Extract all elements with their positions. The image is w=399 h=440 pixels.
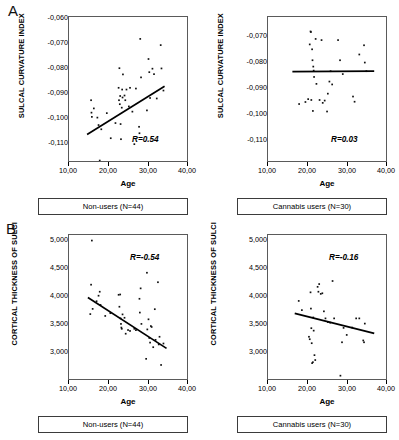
data-point [343,327,345,329]
data-point [118,87,120,89]
data-point [152,346,154,348]
y-tick-label: -0,080 [227,58,267,65]
x-tick-label: 10,00 [59,385,77,392]
data-point [160,44,162,46]
x-axis: 10,00 20,00 30,00 40,00 [68,380,188,385]
regression-line [87,86,164,134]
data-point [342,73,344,75]
data-point [120,138,122,140]
data-point [157,281,159,283]
data-point [163,90,165,92]
data-point [341,341,343,343]
data-point [358,54,360,56]
y-tick-label: 3,000 [227,348,267,355]
x-tick-label: 20,00 [298,385,316,392]
data-point [125,333,127,335]
data-point [121,89,123,91]
y-axis-ticks: 5,000 4,500 4,000 3,500 3,000 [223,232,267,382]
data-point [310,31,312,33]
data-point [148,58,150,60]
group-caption-text: Cannabis users (N=30) [273,203,351,211]
data-point [313,76,315,78]
data-point [337,39,339,41]
data-point [346,334,348,336]
correlation-label: R=0.54 [132,136,159,144]
data-point [90,284,92,286]
data-point [139,132,141,134]
y-tick-label: 4,500 [28,264,68,271]
data-point [154,308,156,310]
data-point [126,89,128,91]
data-point [309,44,311,46]
y-tick-label: -0,070 [227,32,267,39]
data-point [305,101,307,103]
y-axis-ticks: 5,000 4,500 4,000 3,500 3,000 [24,232,68,382]
group-caption-box: Cannabis users (N=30) [237,416,387,433]
panel-a: A SULCAL CURVATURE INDEX -0,060 -0,070 -… [0,0,399,220]
y-axis-ticks: -0,060 -0,070 -0,080 -0,090 -0,100 -0,11… [24,14,68,164]
regression-line [292,71,374,72]
data-point [122,97,124,99]
data-point [146,110,148,112]
correlation-label: R=0.03 [331,136,358,144]
y-tick-label: -0,080 [28,64,68,71]
x-axis-title: Age [68,180,188,188]
scatter-canvas [69,17,187,161]
data-point [332,280,334,282]
plot-sulcal-curvature-nonusers: SULCAL CURVATURE INDEX -0,060 -0,070 -0,… [2,14,198,216]
data-point [106,112,108,114]
scatter-canvas [268,235,386,379]
data-point [139,38,141,40]
data-point [310,291,312,293]
data-point [124,317,126,319]
y-tick-label: -0,100 [28,114,68,121]
x-tick-label: 20,00 [99,385,117,392]
plot-area [267,16,387,162]
data-point [122,74,124,76]
data-point [321,39,323,41]
data-point [362,340,364,342]
data-point [160,364,162,366]
group-caption-text: Non-users (N=44) [83,203,144,211]
y-axis-ticks: -0,070 -0,080 -0,090 -0,100 -0,110 [223,14,267,164]
regression-line [88,298,167,349]
data-point [119,67,121,69]
data-point [129,87,131,89]
correlation-label: R=-0.54 [130,254,159,262]
group-caption-box: Non-users (N=44) [38,416,188,433]
data-point [119,306,121,308]
plot-area [68,16,188,162]
y-tick-label: 5,000 [227,236,267,243]
x-tick-label: 40,00 [178,385,196,392]
data-point [122,314,124,316]
data-point [129,330,131,332]
data-point [309,338,311,340]
data-point [339,59,341,61]
data-point [91,240,93,242]
data-point [104,315,106,317]
data-point [312,110,314,112]
y-axis-title: CORTICAL THICKNESS OF SULCI [11,219,18,349]
data-point [355,318,357,320]
group-caption-text: Non-users (N=44) [83,421,144,429]
data-point [301,309,303,311]
data-point [156,98,158,100]
data-point [89,313,91,315]
data-point [98,124,100,126]
data-point [363,44,365,46]
data-point [321,292,323,294]
scatter-canvas [268,17,386,161]
data-point [312,361,314,363]
data-point [146,272,148,274]
x-tick-label: 10,00 [258,167,276,174]
y-tick-label: 4,000 [227,292,267,299]
data-point [97,117,99,119]
data-point [120,323,122,325]
y-tick-label: -0,090 [28,89,68,96]
x-tick-label: 20,00 [298,167,316,174]
data-point [119,294,121,296]
data-point [149,97,151,99]
data-point [139,312,141,314]
data-point [124,99,126,101]
data-point [319,99,321,101]
